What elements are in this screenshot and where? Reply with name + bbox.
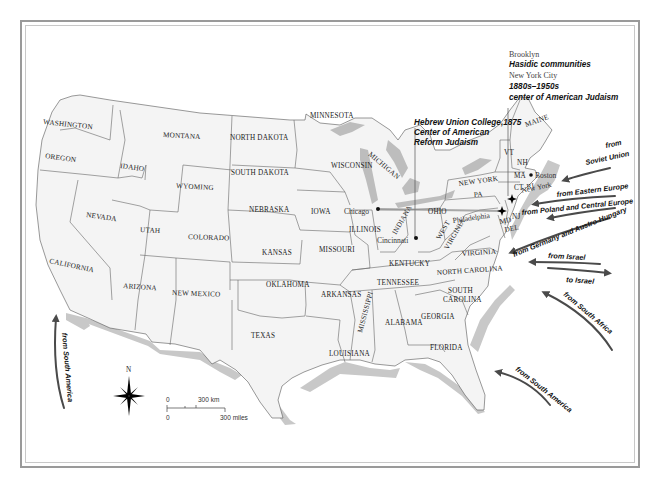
arrow-label-to-israel: to Israel [566,275,596,286]
svg-text:Reform Judaism: Reform Judaism [414,138,478,147]
arrow-label-soviet-1: from [605,138,623,150]
svg-text:300 miles: 300 miles [220,414,249,421]
state-label-oh: OHIO [428,208,447,216]
city-cincinnati: Cincinnati [377,236,408,245]
state-label-sd: SOUTH DAKOTA [231,169,290,177]
state-label-ia: IOWA [311,208,331,216]
state-label-ks: KANSAS [262,249,292,257]
state-label-nm: NEW MEXICO [172,289,221,299]
svg-text:Hasidic communities: Hasidic communities [509,60,591,69]
svg-text:Brooklyn: Brooklyn [509,50,539,59]
state-label-pa: PA [474,190,484,199]
boston-dot [529,173,533,177]
svg-text:0: 0 [166,414,170,421]
arrow-label-from-israel: from Israel [548,251,587,262]
state-label-il: ILLINOIS [349,226,381,234]
state-label-nj: NJ [512,213,520,221]
us-map: WASHINGTONOREGONCALIFORNIAIDAHONEVADAMON… [0,0,645,477]
state-label-ut: UTAH [140,226,161,235]
cincinnati-dot [414,236,418,240]
state-label-wi: WISCONSIN [331,162,373,170]
city-chicago: Chicago [344,207,369,216]
state-label-la: LOUISIANA [329,350,371,358]
scale-bar: 0 300 km 0 300 miles [166,396,249,421]
state-label-de: DEL [504,224,520,234]
chicago-dot [376,207,380,211]
state-label-ga: GEORGIA [421,313,455,321]
svg-text:New York City: New York City [509,71,557,80]
state-label-ma: MA [514,172,527,180]
state-label-ne: NEBRASKA [249,206,290,214]
state-label-sc: SOUTH [448,287,473,295]
svg-text:center of American Judaism: center of American Judaism [509,93,618,102]
state-label-mo: MISSOURI [319,246,355,254]
svg-text:300 km: 300 km [198,396,219,403]
state-label-co: COLORADO [188,233,230,242]
state-label-al: ALABAMA [385,319,423,327]
state-label-ok: OKLAHOMA [266,281,310,289]
state-label-tx: TEXAS [251,332,275,340]
state-label-fl: FLORIDA [430,344,463,352]
annotation-brooklyn: Brooklyn Hasidic communities [509,50,591,69]
arrow-label-soviet-2: Soviet Union [585,149,631,167]
state-label-ky: KENTUCKY [389,260,431,268]
state-label-nh: NH [517,159,528,167]
city-boston: Boston [535,171,557,180]
arrow-label-south-america-west: from South America [60,332,75,402]
compass-rose-icon: N [113,366,145,416]
state-label-tn: TENNESSEE [377,279,420,287]
svg-text:Hebrew Union College,1875: Hebrew Union College,1875 [414,118,522,127]
arrow-label-south-africa: from South Africa [562,290,615,336]
arrow-label-south-america-east: from South America [514,364,574,414]
state-label-vt: VT [504,149,514,157]
svg-text:Center of American: Center of American [414,128,489,137]
annotation-nyc: New York City 1880s–1950s center of Amer… [509,71,618,102]
state-label-mn: MINNESOTA [310,112,354,120]
state-label-nd: NORTH DAKOTA [230,134,289,142]
svg-text:1880s–1950s: 1880s–1950s [509,82,560,91]
state-label-sc2: CAROLINA [443,296,482,304]
state-label-ar: ARKANSAS [321,291,361,299]
svg-text:0: 0 [166,396,170,403]
compass-north-label: N [126,366,132,374]
